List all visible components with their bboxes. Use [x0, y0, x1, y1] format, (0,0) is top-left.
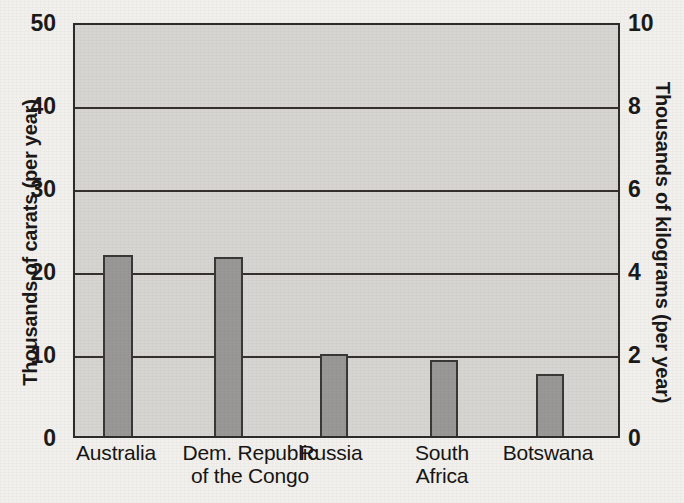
- y-tick-label-right: 4: [628, 261, 641, 284]
- y-tick-label-right: 6: [628, 178, 641, 201]
- x-axis-category-line: Russia: [276, 442, 386, 465]
- x-axis-category-line: Botswana: [473, 442, 623, 465]
- bar: [214, 257, 243, 436]
- gridline: [75, 107, 618, 109]
- x-axis-category-label: Russia: [276, 442, 386, 465]
- y-tick-label-right: 0: [628, 427, 641, 450]
- y-tick-label-right: 8: [628, 95, 641, 118]
- y-tick-label-right: 2: [628, 344, 641, 367]
- bar-chart: 01020304050 0246810 Thousands of carats …: [0, 0, 684, 503]
- bar: [430, 360, 458, 436]
- gridline: [75, 273, 618, 275]
- y-axis-left-title: Thousands of carats (per year): [19, 33, 42, 453]
- plot-area: [73, 23, 620, 438]
- x-axis-category-line: Africa: [382, 465, 502, 488]
- y-axis-right-title: Thousands of kilograms (per year): [651, 33, 674, 453]
- x-axis-category-line: of the Congo: [135, 465, 365, 488]
- bar: [320, 354, 348, 436]
- plot-inner: [75, 25, 618, 436]
- bar: [103, 255, 133, 436]
- bar: [536, 374, 564, 436]
- x-axis-category-label: Botswana: [473, 442, 623, 465]
- gridline: [75, 190, 618, 192]
